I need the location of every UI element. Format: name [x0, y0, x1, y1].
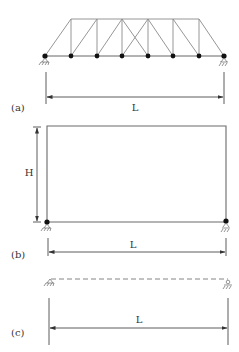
dimension-label-h: H: [25, 167, 34, 178]
node: [120, 54, 125, 59]
node: [44, 219, 49, 224]
end-diagonal-right: [199, 19, 224, 56]
diagonal: [173, 19, 199, 56]
roller-support-icon: [219, 58, 228, 66]
structural-diagram: L (a) H L (b): [0, 0, 239, 352]
pin-support-icon: [44, 279, 54, 286]
diagonal: [71, 19, 97, 56]
end-diagonal-left: [45, 19, 71, 56]
diagonal: [97, 19, 122, 56]
panel-b-frame: H L (b): [11, 126, 230, 260]
roller-support-icon: [223, 280, 232, 289]
frame-members: [47, 126, 226, 222]
node: [171, 54, 176, 59]
node: [42, 53, 47, 58]
panel-a-truss: L (a): [11, 19, 228, 113]
panel-c-beam: L (c): [11, 279, 232, 345]
panel-label-a: (a): [11, 102, 25, 113]
node: [223, 218, 228, 223]
node: [221, 53, 226, 58]
dimension-label-l: L: [130, 239, 137, 250]
dimension-label-l: L: [132, 102, 139, 113]
panel-label-c: (c): [11, 327, 25, 338]
roller-support-icon: [221, 223, 230, 232]
diagonal: [148, 19, 173, 56]
node: [69, 54, 74, 59]
node: [197, 54, 202, 59]
dimension-label-l: L: [136, 314, 143, 325]
panel-label-b: (b): [11, 249, 25, 260]
node: [95, 54, 100, 59]
node: [146, 54, 151, 59]
pin-support-icon: [41, 224, 51, 231]
pin-support-icon: [39, 58, 49, 65]
